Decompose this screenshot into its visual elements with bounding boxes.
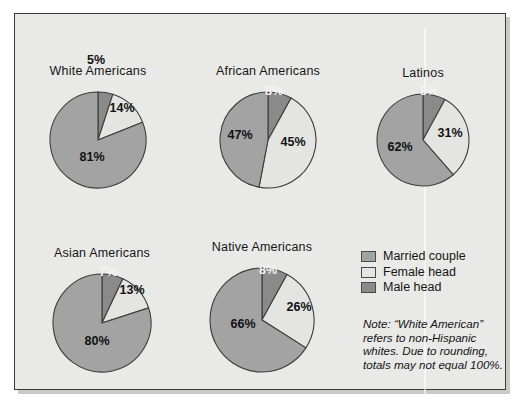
legend-item: Married couple (361, 250, 466, 263)
figure-pie-chart-panel: White Americans5%14%81%African Americans… (0, 0, 522, 410)
slice-value-label: 66% (230, 317, 255, 331)
legend-swatch-icon (361, 251, 376, 262)
slice-value-label: 8% (259, 263, 277, 277)
slice-value-label: 26% (286, 300, 311, 314)
legend-item: Female head (361, 266, 466, 279)
legend-item-label: Married couple (383, 250, 466, 263)
legend: Married coupleFemale headMale head (361, 250, 466, 297)
legend-item-label: Male head (383, 281, 441, 294)
legend-item-label: Female head (383, 266, 456, 279)
legend-swatch-icon (361, 267, 376, 278)
figure-note: Note: “White American” refers to non-His… (363, 317, 503, 371)
legend-item: Male head (361, 281, 466, 294)
legend-swatch-icon (361, 282, 376, 293)
